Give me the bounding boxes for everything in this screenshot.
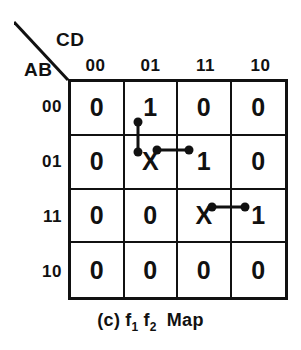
figure-caption: (c)f1f2Map: [0, 310, 301, 334]
kmap-cell-r1c3[interactable]: 0: [232, 136, 286, 190]
karnaugh-map-figure: CD AB 00 01 11 10 00 01 11 10 0 1 0 0 0 …: [0, 0, 301, 350]
kmap-cell-r3c2[interactable]: 0: [178, 243, 232, 297]
karnaugh-map-grid: 0 1 0 0 0 X 1 0 0 0 X 1 0 0 0 0: [68, 79, 288, 300]
column-header-3: 10: [233, 54, 288, 78]
kmap-cell-r0c2[interactable]: 0: [178, 82, 232, 136]
row-header-3: 10: [18, 245, 66, 300]
caption-f2-subscript: 2: [150, 320, 157, 334]
kmap-cell-r2c1[interactable]: 0: [125, 190, 179, 244]
kmap-cell-r1c1[interactable]: X: [125, 136, 179, 190]
kmap-cell-r0c3[interactable]: 0: [232, 82, 286, 136]
column-variables-label: CD: [56, 30, 84, 49]
kmap-cell-r1c0[interactable]: 0: [71, 136, 125, 190]
caption-suffix: Map: [167, 310, 204, 330]
column-header-0: 00: [68, 54, 123, 78]
kmap-cell-r0c0[interactable]: 0: [71, 82, 125, 136]
kmap-cell-r2c0[interactable]: 0: [71, 190, 125, 244]
row-header-column: 00 01 11 10: [18, 79, 66, 300]
caption-prefix: (c): [97, 310, 120, 330]
column-header-1: 01: [123, 54, 178, 78]
column-header-row: 00 01 11 10: [68, 54, 288, 78]
row-header-1: 01: [18, 134, 66, 189]
column-header-2: 11: [178, 54, 233, 78]
axis-corner: CD AB: [14, 14, 76, 84]
row-header-2: 11: [18, 190, 66, 245]
row-header-0: 00: [18, 79, 66, 134]
kmap-cell-r0c1[interactable]: 1: [125, 82, 179, 136]
kmap-cell-r1c2[interactable]: 1: [178, 136, 232, 190]
kmap-cell-r3c0[interactable]: 0: [71, 243, 125, 297]
caption-f1-subscript: 1: [132, 320, 139, 334]
row-variables-label: AB: [24, 60, 52, 79]
kmap-cell-r3c3[interactable]: 0: [232, 243, 286, 297]
kmap-cell-r2c3[interactable]: 1: [232, 190, 286, 244]
kmap-cell-r2c2[interactable]: X: [178, 190, 232, 244]
kmap-cell-r3c1[interactable]: 0: [125, 243, 179, 297]
